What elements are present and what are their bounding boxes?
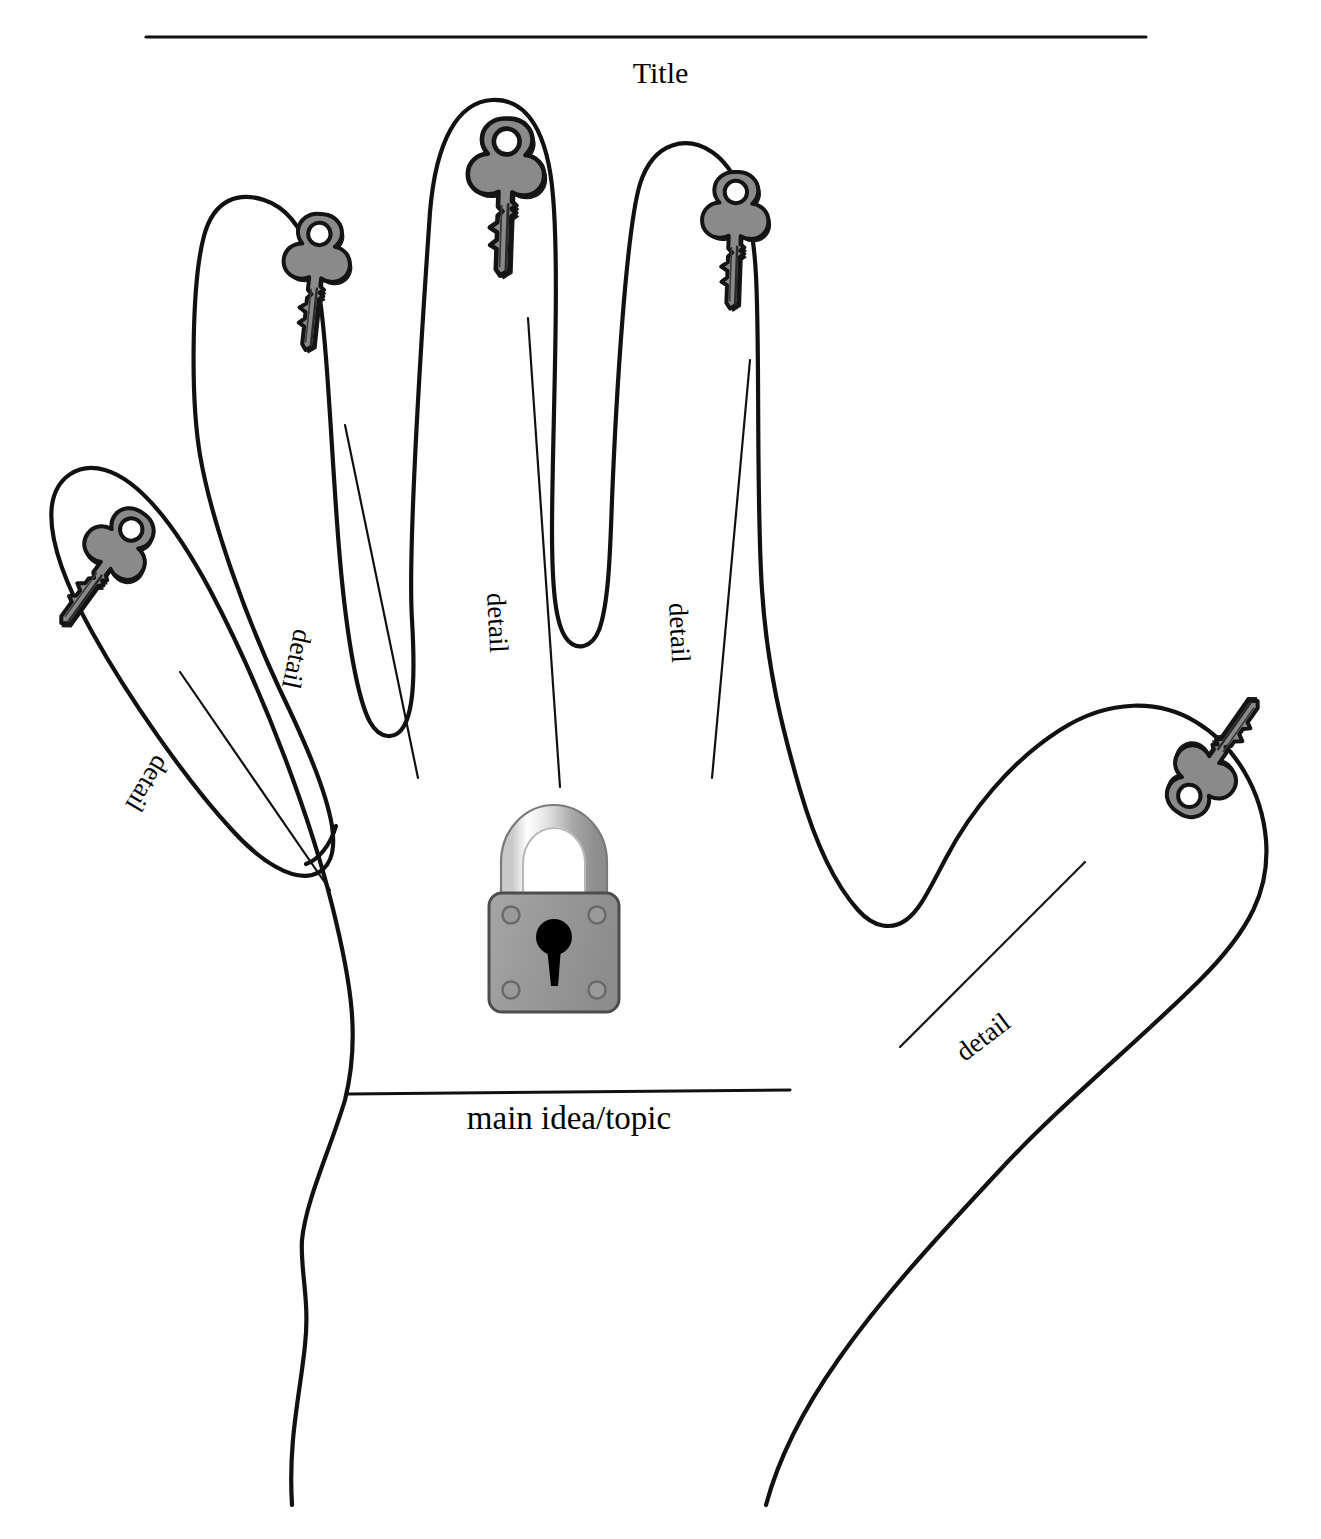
hand-outline [51,100,1266,1505]
detail-line-ring [712,360,750,778]
hand-silhouette-path [51,100,1266,1505]
padlock-icon [489,805,619,1012]
key-icon-middle [464,117,549,281]
key-icon-pinky [34,494,172,648]
key-icon-ring [699,171,773,313]
key-icon-thumb [1148,677,1285,831]
detail-label-ring: detail [662,602,696,664]
main-idea-label: main idea/topic [348,1100,790,1137]
detail-line-pinky [180,672,330,890]
worksheet-page: Title main idea/topic detail detail deta… [0,0,1321,1539]
hand-graphic-organizer-canvas [0,0,1321,1539]
main-idea-rule [348,1090,790,1094]
title-label: Title [0,56,1321,90]
detail-label-middle: detail [480,592,514,654]
key-icon-index [274,211,357,357]
detail-leader-lines [180,318,1085,1047]
detail-line-index [345,425,418,778]
